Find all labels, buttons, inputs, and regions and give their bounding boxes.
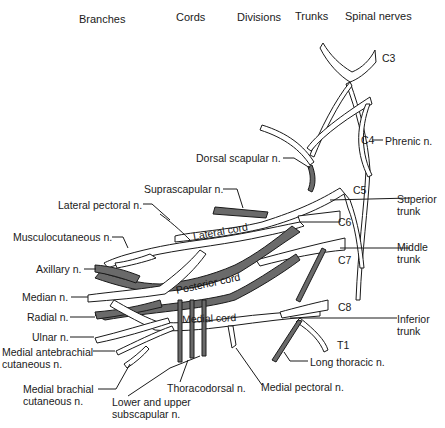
dorsal-scapular-branch: [308, 165, 315, 192]
label-radial: Radial n.: [27, 311, 68, 323]
label-axillary: Axillary n.: [36, 263, 82, 275]
label-middle-trunk: Middle trunk: [397, 241, 443, 265]
label-inferior-trunk: Inferior trunk: [397, 313, 443, 337]
label-long-thoracic: Long thoracic n.: [310, 356, 385, 368]
medial-cord-label: Medial cord: [182, 311, 237, 325]
leader-musculocutaneous: [112, 237, 128, 248]
label-c8: C8: [338, 301, 351, 313]
suprascapular-nerve: [213, 207, 268, 218]
label-lower-upper-subscapular: Lower and upper subscapular n.: [112, 396, 196, 420]
label-thoracodorsal: Thoracodorsal n.: [167, 382, 246, 394]
label-c6: C6: [338, 216, 351, 228]
c3-root: [320, 43, 376, 82]
label-c5: C5: [353, 184, 366, 196]
label-medial-brachial-cutaneous: Medial brachial cutaneous n.: [23, 383, 101, 407]
label-c4: C4: [361, 134, 374, 146]
upper-subscapular-nerve: [202, 300, 206, 356]
label-suprascapular: Suprascapular n.: [144, 183, 223, 195]
thoracodorsal-nerve: [190, 300, 194, 358]
label-median: Median n.: [22, 291, 68, 303]
leader-lateral-pectoral: [143, 204, 170, 220]
leader-suprascapular: [223, 189, 243, 208]
label-t1: T1: [337, 339, 349, 351]
label-phrenic: Phrenic n.: [385, 135, 432, 147]
label-c3: C3: [382, 52, 395, 64]
label-medial-pectoral: Medial pectoral n.: [261, 381, 344, 393]
label-dorsal-scapular: Dorsal scapular n.: [196, 152, 281, 164]
medial-pectoral-nerve: [228, 326, 236, 348]
label-c7: C7: [338, 254, 351, 266]
label-musculocutaneous: Musculocutaneous n.: [13, 231, 112, 243]
label-ulnar: Ulnar n.: [32, 331, 69, 343]
lower-subscapular-nerve: [178, 300, 182, 362]
leader-medial-brachial: [98, 364, 130, 389]
label-superior-trunk: Superior trunk: [397, 193, 443, 217]
leader-long-thoracic: [284, 352, 308, 361]
label-medial-antebrachial-cutaneous: Medial antebrachial cutaneous n.: [2, 346, 98, 370]
leader-medial-pectoral: [236, 348, 262, 385]
label-lateral-pectoral: Lateral pectoral n.: [58, 199, 142, 211]
